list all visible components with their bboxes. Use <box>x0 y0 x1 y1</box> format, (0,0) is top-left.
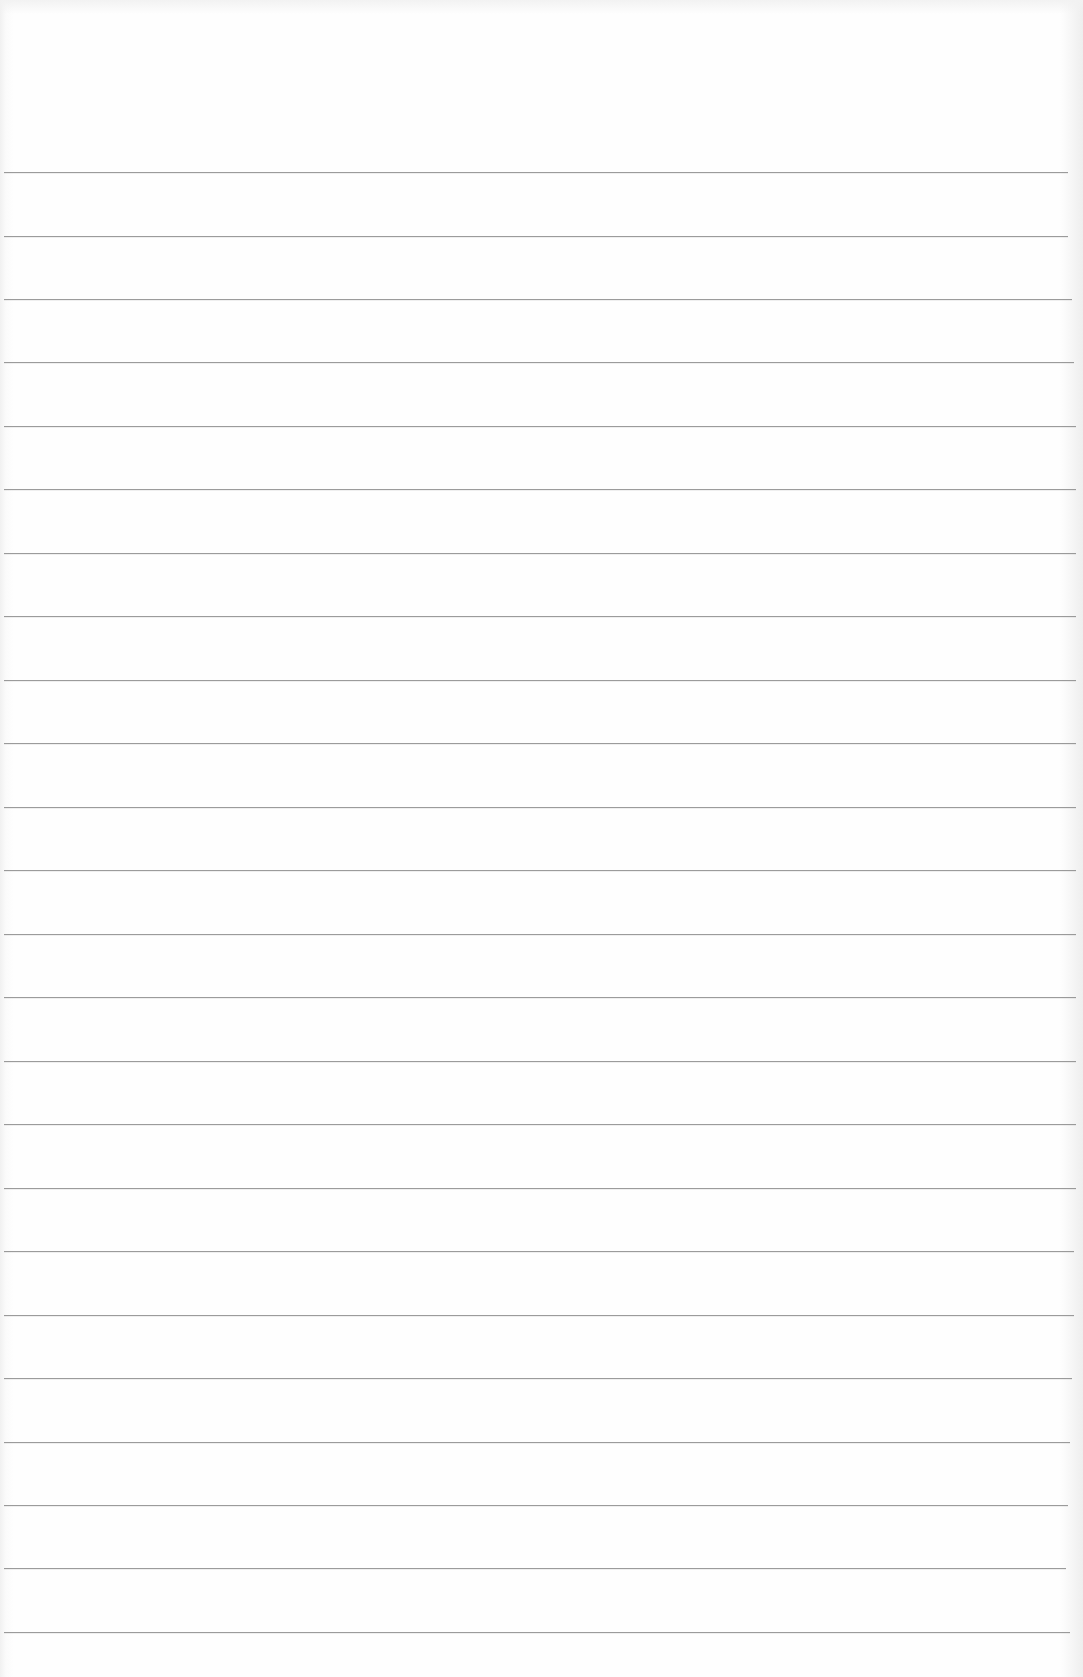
ruled-line <box>4 1568 1066 1569</box>
ruled-line <box>4 299 1072 300</box>
ruled-line <box>4 426 1076 427</box>
ruled-line <box>4 172 1068 173</box>
ruled-line <box>4 680 1076 681</box>
ruled-line <box>4 553 1076 554</box>
ruled-paper-page <box>0 0 1083 1677</box>
ruled-line <box>4 743 1076 744</box>
ruled-line <box>4 870 1076 871</box>
ruled-line <box>4 616 1076 617</box>
ruled-line <box>4 236 1068 237</box>
ruled-line <box>4 1632 1070 1633</box>
ruled-line <box>4 997 1076 998</box>
ruled-line <box>4 1061 1076 1062</box>
ruled-line <box>4 1315 1074 1316</box>
scan-edge-shadow <box>0 0 1083 14</box>
ruled-line <box>4 1442 1070 1443</box>
ruled-line <box>4 1124 1076 1125</box>
ruled-line <box>4 807 1076 808</box>
ruled-line <box>4 1188 1076 1189</box>
ruled-line <box>4 934 1076 935</box>
ruled-line <box>4 362 1074 363</box>
ruled-line <box>4 1251 1074 1252</box>
ruled-line <box>4 1378 1072 1379</box>
ruled-line <box>4 489 1076 490</box>
ruled-line <box>4 1505 1068 1506</box>
